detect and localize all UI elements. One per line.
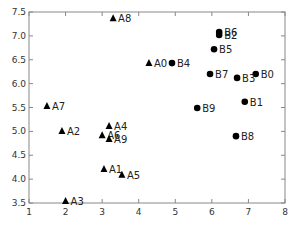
point-label: A1: [109, 164, 122, 175]
x-tick-label: 4: [136, 207, 142, 217]
point-label: A3: [71, 196, 84, 207]
x-tick-label: 3: [99, 207, 105, 217]
scatter-chart: 12345678 3.54.04.55.05.56.06.57.07.5 A0A…: [0, 0, 293, 226]
point-label: A7: [52, 101, 65, 112]
x-tick-label: 6: [209, 207, 215, 217]
circle-marker-icon: [211, 46, 218, 53]
x-tick-label: 1: [26, 207, 32, 217]
point-label: B6: [224, 27, 237, 38]
point-label: A2: [67, 126, 80, 137]
point-label: B0: [261, 69, 274, 80]
circle-marker-icon: [194, 105, 201, 112]
circle-marker-icon: [216, 29, 223, 36]
circle-marker-icon: [233, 133, 240, 140]
plot-border: [29, 12, 285, 203]
point-label: B7: [215, 69, 228, 80]
circle-marker-icon: [234, 75, 241, 82]
point-label: A9: [114, 134, 127, 145]
y-tick-label: 7.5: [12, 7, 26, 17]
y-tick-label: 4.5: [12, 150, 26, 160]
point-label: B4: [177, 58, 190, 69]
x-tick-label: 2: [63, 207, 69, 217]
y-tick-label: 5.0: [12, 126, 27, 136]
data-point-a3: A3: [62, 196, 84, 207]
x-tick-label: 7: [246, 207, 252, 217]
y-tick-label: 6.0: [12, 79, 27, 89]
circle-marker-icon: [169, 60, 176, 67]
point-label: A8: [118, 13, 131, 24]
point-label: B3: [242, 73, 255, 84]
y-tick-label: 3.5: [12, 198, 26, 208]
y-tick-label: 6.5: [12, 55, 26, 65]
point-label: A5: [127, 170, 140, 181]
point-label: B5: [219, 44, 232, 55]
y-tick-label: 4.0: [12, 174, 27, 184]
circle-marker-icon: [207, 71, 214, 78]
point-label: B9: [202, 103, 215, 114]
y-tick-label: 7.0: [12, 31, 27, 41]
x-tick-label: 5: [172, 207, 178, 217]
y-tick-label: 5.5: [12, 103, 26, 113]
plot-area: [29, 12, 285, 203]
point-label: A0: [154, 58, 167, 69]
circle-marker-icon: [241, 98, 248, 105]
point-label: B1: [250, 97, 263, 108]
point-label: B8: [241, 131, 254, 142]
x-tick-label: 8: [282, 207, 288, 217]
